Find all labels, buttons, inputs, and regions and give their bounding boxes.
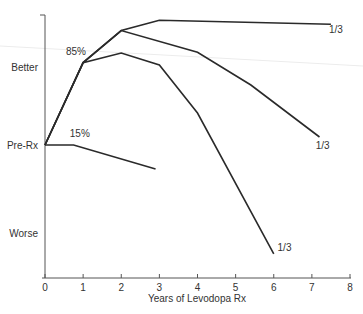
- y-label-pre-rx: Pre-Rx: [7, 140, 38, 151]
- x-tick-label: 8: [347, 282, 353, 293]
- series-line: [45, 20, 331, 145]
- series-line: [45, 53, 274, 254]
- annotation-label: 1/3: [316, 140, 330, 151]
- scan-artifact-line: [0, 46, 363, 66]
- x-tick-label: 3: [157, 282, 163, 293]
- annotation-label: 1/3: [329, 24, 343, 35]
- annotations: 85%15%1/31/31/3: [66, 24, 343, 253]
- x-tick-label: 7: [309, 282, 315, 293]
- x-tick-label: 0: [42, 282, 48, 293]
- annotation-label: 15%: [70, 128, 90, 139]
- x-tick-label: 4: [195, 282, 201, 293]
- x-tick-label: 1: [80, 282, 86, 293]
- levodopa-response-chart: 012345678 Years of Levodopa Rx Better Pr…: [0, 0, 363, 314]
- x-tick-label: 2: [118, 282, 124, 293]
- annotation-label: 85%: [66, 46, 86, 57]
- annotation-label: 1/3: [278, 242, 292, 253]
- y-label-better: Better: [11, 62, 38, 73]
- x-tick-labels: 012345678: [42, 282, 353, 293]
- x-ticks: [45, 274, 350, 278]
- y-axis: [40, 15, 45, 278]
- x-tick-label: 5: [233, 282, 239, 293]
- y-label-worse: Worse: [9, 228, 38, 239]
- x-tick-label: 6: [271, 282, 277, 293]
- series-line: [45, 145, 156, 169]
- x-axis-title: Years of Levodopa Rx: [148, 293, 246, 304]
- y-category-labels: Better Pre-Rx Worse: [7, 62, 39, 239]
